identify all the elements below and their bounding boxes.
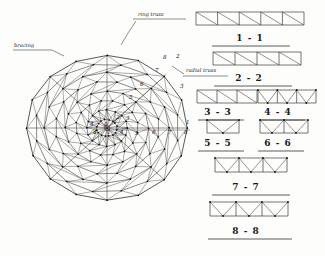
annotation-bracing: bracing: [14, 42, 35, 49]
section-7-7-label: 7 - 7: [232, 182, 260, 192]
section-8-8: 8 - 8: [208, 201, 292, 239]
annotation-ring-truss: ring truss: [138, 11, 164, 18]
truss-sections-group: 1 - 12 - 23 - 34 - 45 - 56 - 67 - 78 - 8: [196, 12, 317, 239]
section-1-1-label: 1 - 1: [236, 33, 264, 43]
ring-number-label: 3: [126, 115, 130, 121]
ring-number-label: 8: [184, 129, 188, 135]
section-2-2: 2 - 2: [213, 52, 301, 86]
ring-number-label: 4: [92, 129, 97, 135]
section-4-4-label: 4 - 4: [264, 107, 292, 117]
ring-number-label: 4: [89, 121, 94, 127]
ring-number-label: 2: [175, 53, 180, 59]
section-7-7: 7 - 7: [212, 157, 290, 195]
drawing-sheet: 1 - 12 - 23 - 34 - 45 - 56 - 67 - 78 - 8…: [0, 0, 325, 256]
section-5-5-label: 5 - 5: [204, 138, 232, 148]
ring-number-label: 8: [163, 54, 167, 60]
annotation-radial-truss: radial truss: [186, 67, 217, 73]
ring-number-label: 5: [129, 94, 133, 100]
ring-number-label: 3: [180, 83, 184, 89]
ring-number-label: 0: [104, 121, 108, 127]
section-2-2-label: 2 - 2: [235, 73, 263, 83]
ring-number-label: 7: [155, 67, 159, 73]
ring-number-label: 4: [119, 129, 124, 135]
section-1-1: 1 - 1: [196, 12, 304, 46]
ring-number-label: 6: [152, 129, 156, 135]
section-4-4: 4 - 4: [257, 89, 317, 120]
section-6-6: 6 - 6: [258, 119, 309, 151]
ring-number-label: 1: [107, 129, 111, 135]
ring-number-label: 7: [168, 129, 172, 135]
section-3-3: 3 - 3: [197, 90, 257, 120]
dome-framing-plan: [26, 55, 190, 201]
ring-number-label: 5: [135, 130, 139, 136]
ring-number-label: 6: [140, 81, 144, 87]
engineering-drawing-canvas: 1 - 12 - 23 - 34 - 45 - 56 - 67 - 78 - 8…: [0, 0, 325, 256]
annotation-text-group: ring trussradial trussbracing01234456781…: [14, 11, 217, 136]
ring-number-label: 1: [186, 119, 190, 125]
section-6-6-label: 6 - 6: [264, 138, 292, 148]
section-5-5: 5 - 5: [198, 119, 244, 151]
section-3-3-label: 3 - 3: [204, 107, 232, 117]
section-8-8-label: 8 - 8: [232, 226, 260, 236]
ring-number-label: 2: [115, 114, 120, 120]
